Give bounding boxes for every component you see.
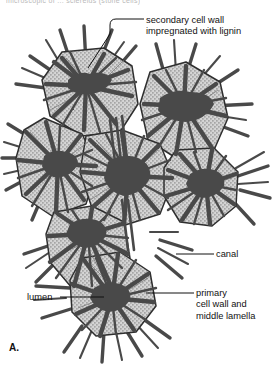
label-secondary-cell-wall: secondary cell wall impregnated with lig…: [146, 15, 241, 38]
label-lumen: lumen: [27, 292, 52, 303]
figure-root: microscopic of ... sclereids (stone cell…: [0, 0, 274, 365]
label-primary-cell-wall: primary cell wall and middle lamella: [196, 288, 255, 322]
label-primary-line3: middle lamella: [196, 311, 255, 321]
label-canal: canal: [216, 249, 238, 260]
label-secondary-line1: secondary cell wall: [146, 15, 224, 25]
figure-label: A.: [9, 342, 19, 353]
label-secondary-line2: impregnated with lignin: [146, 26, 241, 36]
label-primary-line2: cell wall and: [196, 299, 247, 309]
label-primary-line1: primary: [196, 288, 227, 298]
